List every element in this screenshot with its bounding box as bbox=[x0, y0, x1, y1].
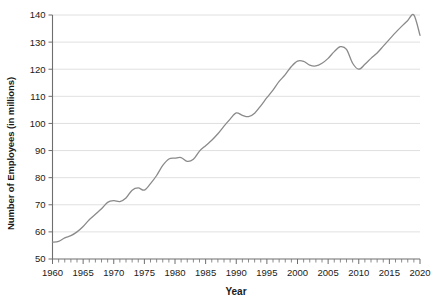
x-tick-label: 1975 bbox=[134, 267, 155, 278]
x-tick-label: 2005 bbox=[318, 267, 339, 278]
y-tick-label: 110 bbox=[30, 91, 45, 102]
x-axis-title: Year bbox=[52, 286, 420, 297]
x-axis-ticks-group: 1960196519701975198019851990199520002005… bbox=[42, 259, 431, 278]
x-tick-label: 1985 bbox=[195, 267, 216, 278]
x-tick-label: 2020 bbox=[409, 267, 430, 278]
x-tick-label: 2010 bbox=[348, 267, 369, 278]
gridlines-group bbox=[53, 15, 421, 232]
y-tick-label: 140 bbox=[30, 9, 46, 20]
x-tick-label: 1960 bbox=[42, 267, 63, 278]
x-tick-label: 2000 bbox=[287, 267, 308, 278]
x-tick-label: 1970 bbox=[103, 267, 124, 278]
y-axis-ticks-group: 5060708090100110120130140 bbox=[30, 9, 53, 264]
y-tick-label: 70 bbox=[35, 199, 46, 210]
y-tick-label: 50 bbox=[35, 253, 46, 264]
y-tick-label: 80 bbox=[35, 172, 46, 183]
x-tick-label: 1980 bbox=[164, 267, 185, 278]
data-series-line bbox=[53, 14, 421, 242]
y-tick-label: 100 bbox=[30, 118, 46, 129]
x-tick-label: 1990 bbox=[226, 267, 247, 278]
y-tick-label: 60 bbox=[35, 226, 46, 237]
y-tick-label: 120 bbox=[30, 64, 46, 75]
x-tick-label: 2015 bbox=[379, 267, 400, 278]
axes-group bbox=[53, 15, 421, 259]
y-tick-label: 90 bbox=[35, 145, 46, 156]
y-tick-label: 130 bbox=[30, 37, 46, 48]
plot-area: 5060708090100110120130140 19601965197019… bbox=[0, 0, 433, 307]
x-tick-label: 1965 bbox=[73, 267, 94, 278]
employment-line-chart: Number of Employees (in millions) 506070… bbox=[0, 0, 433, 307]
x-tick-label: 1995 bbox=[256, 267, 277, 278]
